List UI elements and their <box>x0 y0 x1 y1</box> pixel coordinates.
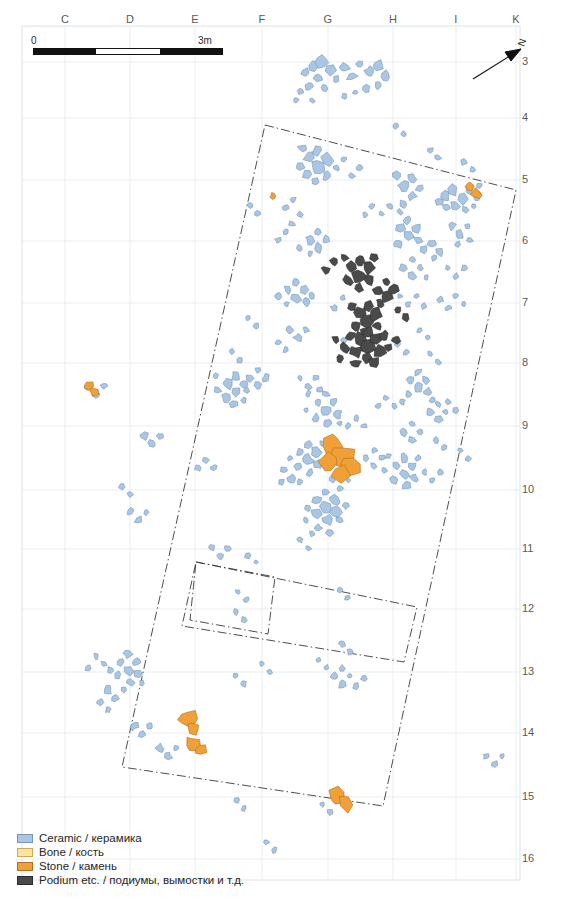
find-podium <box>372 287 384 295</box>
find-ceramic <box>294 98 300 103</box>
find-podium <box>351 322 360 331</box>
find-ceramic <box>417 328 423 333</box>
scale-bar-end-label: 3m <box>198 35 212 46</box>
find-podium <box>343 274 354 285</box>
find-ceramic <box>234 609 239 616</box>
find-ceramic <box>133 658 141 666</box>
find-ceramic <box>316 657 321 662</box>
find-ceramic <box>373 60 383 71</box>
find-ceramic <box>297 145 307 152</box>
find-ceramic <box>443 205 451 211</box>
find-ceramic <box>229 401 238 408</box>
scale-bar-track <box>33 48 223 55</box>
find-ceramic <box>321 407 331 416</box>
find-ceramic <box>305 505 311 512</box>
find-ceramic <box>243 597 249 602</box>
find-ceramic <box>336 517 343 523</box>
find-ceramic <box>340 295 345 301</box>
find-ceramic <box>280 467 287 473</box>
find-ceramic <box>408 191 417 201</box>
find-ceramic <box>396 224 406 233</box>
find-ceramic <box>306 546 312 551</box>
find-ceramic <box>319 501 331 513</box>
trench-inner-outline <box>182 562 417 662</box>
find-ceramic <box>124 667 134 677</box>
find-ceramic <box>342 503 349 510</box>
find-stone <box>270 193 276 200</box>
find-ceramic <box>217 553 224 559</box>
find-ceramic <box>240 381 248 388</box>
find-ceramic <box>405 302 411 307</box>
find-ceramic <box>155 743 164 753</box>
scale-bar-segment-2 <box>160 49 222 54</box>
find-ceramic <box>247 203 253 209</box>
find-podium <box>372 322 381 330</box>
find-ceramic <box>401 131 407 137</box>
find-ceramic <box>330 672 338 679</box>
find-ceramic <box>315 242 322 254</box>
find-ceramic <box>241 397 247 403</box>
find-ceramic <box>347 649 353 655</box>
find-ceramic <box>435 155 442 160</box>
legend-swatch-podium <box>17 876 33 885</box>
find-ceramic <box>320 802 325 808</box>
find-ceramic <box>421 303 427 310</box>
find-ceramic <box>342 93 347 99</box>
find-ceramic <box>174 745 179 750</box>
find-ceramic <box>134 670 143 678</box>
find-ceramic <box>383 395 389 401</box>
find-ceramic <box>420 246 426 254</box>
find-ceramic <box>310 98 316 103</box>
finds-layer-ceramic <box>84 55 504 854</box>
find-ceramic <box>323 171 330 181</box>
find-ceramic <box>442 410 448 415</box>
find-ceramic <box>339 62 350 71</box>
find-ceramic <box>241 681 247 688</box>
find-ceramic <box>345 422 350 429</box>
find-ceramic <box>123 650 134 658</box>
find-ceramic <box>317 387 323 393</box>
find-ceramic <box>140 432 149 441</box>
find-ceramic <box>127 507 134 515</box>
find-ceramic <box>334 75 339 82</box>
find-ceramic <box>309 531 315 537</box>
find-ceramic <box>427 241 437 247</box>
find-ceramic <box>435 199 443 206</box>
find-ceramic <box>412 224 421 233</box>
find-ceramic <box>453 408 459 414</box>
find-ceramic <box>289 221 296 226</box>
find-ceramic <box>445 305 452 310</box>
find-ceramic <box>118 483 125 490</box>
site-plan-map: N <box>0 0 562 912</box>
find-ceramic <box>144 510 149 516</box>
legend-item-stone: Stone / камень <box>17 859 275 873</box>
find-ceramic <box>294 463 302 470</box>
find-ceramic <box>379 455 385 460</box>
find-ceramic <box>375 82 381 90</box>
find-podium <box>345 332 356 340</box>
find-ceramic <box>214 387 222 393</box>
find-ceramic <box>312 161 325 174</box>
find-ceramic <box>290 197 296 202</box>
find-ceramic <box>347 673 352 678</box>
find-ceramic <box>312 497 322 504</box>
find-ceramic <box>260 661 264 666</box>
find-ceramic <box>404 232 414 241</box>
find-ceramic <box>304 441 312 449</box>
find-ceramic <box>130 722 139 731</box>
find-podium <box>337 355 344 364</box>
find-ceramic <box>434 416 443 423</box>
find-ceramic <box>364 66 374 77</box>
find-ceramic <box>352 90 358 94</box>
find-podium <box>341 254 349 261</box>
find-ceramic <box>311 509 323 519</box>
find-ceramic <box>435 359 442 365</box>
find-ceramic <box>455 241 461 248</box>
grid-row-label-7: 7 <box>522 296 542 308</box>
find-ceramic <box>267 669 273 674</box>
find-ceramic <box>108 667 114 674</box>
find-ceramic <box>406 377 414 385</box>
grid-row-label-15: 15 <box>522 790 542 802</box>
find-podium <box>340 342 350 354</box>
scale-bar-start-label: 0 <box>31 35 37 46</box>
